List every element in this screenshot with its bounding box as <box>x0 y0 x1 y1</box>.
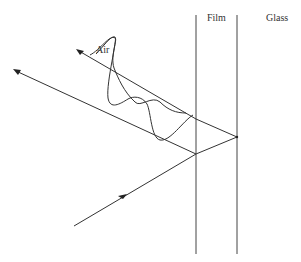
air-label: Air <box>96 45 109 55</box>
refracted-ray <box>196 137 237 154</box>
thin-film-diagram: Air Film Glass <box>0 0 301 262</box>
lower-sine-wave <box>40 68 196 162</box>
glass-reflection-point <box>236 136 238 138</box>
reflected-ray-lower <box>16 71 196 154</box>
incident-ray <box>74 154 196 226</box>
upper-wave-curve <box>95 38 193 141</box>
lower-wave <box>40 68 183 158</box>
glass-label: Glass <box>266 13 288 23</box>
reflected-ray-in-film <box>196 119 237 137</box>
incident-arrow-icon <box>118 194 127 199</box>
reflected-ray-upper <box>79 51 196 119</box>
diagram-canvas <box>0 0 301 262</box>
lower-wave-line <box>40 68 151 162</box>
film-label: Film <box>207 13 226 23</box>
lower-wave-main <box>40 68 172 161</box>
upper-wave-final <box>96 37 193 140</box>
lower-wave-visible-segment <box>40 68 157 152</box>
upper-arrow-icon <box>76 49 84 55</box>
lower-arrow-icon <box>13 69 21 75</box>
